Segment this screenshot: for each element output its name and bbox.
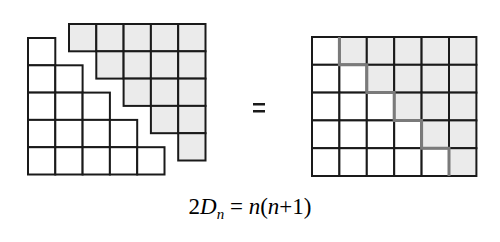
white-cell <box>367 93 394 121</box>
grey-cell <box>339 37 366 65</box>
white-cell <box>367 148 394 176</box>
white-cell <box>422 148 449 176</box>
white-cell <box>110 120 137 147</box>
grey-cell <box>124 51 151 78</box>
grey-cell <box>394 93 421 121</box>
grey-cell <box>151 51 178 78</box>
grey-cell <box>449 65 476 93</box>
grey-cell <box>151 106 178 133</box>
white-cell <box>110 147 137 174</box>
formula-n: n <box>249 194 261 219</box>
white-cell <box>137 147 164 174</box>
white-cell <box>312 65 339 93</box>
white-cell <box>55 147 82 174</box>
grey-cell <box>178 24 205 51</box>
grey-cell <box>422 120 449 148</box>
grey-cell <box>178 51 205 78</box>
white-cell <box>394 120 421 148</box>
white-cell <box>28 120 55 147</box>
grey-cell <box>178 106 205 133</box>
grey-cell <box>151 79 178 106</box>
grey-cell <box>394 65 421 93</box>
white-cell <box>339 148 366 176</box>
formula: 2Dn = n(n+1) <box>0 194 500 223</box>
grey-cell <box>422 65 449 93</box>
grey-cell <box>449 120 476 148</box>
white-cell <box>339 65 366 93</box>
white-cell <box>28 147 55 174</box>
white-cell <box>28 65 55 92</box>
equals-sign <box>253 103 265 113</box>
formula-coef: 2 <box>189 194 201 219</box>
grey-cell <box>367 37 394 65</box>
white-cell <box>339 120 366 148</box>
white-cell <box>83 147 110 174</box>
grey-cell <box>449 148 476 176</box>
grey-cell <box>124 24 151 51</box>
grey-cell <box>178 133 205 160</box>
white-cell <box>339 93 366 121</box>
grey-cell <box>151 24 178 51</box>
white-cell <box>312 120 339 148</box>
grey-cell <box>422 93 449 121</box>
formula-eq: = <box>224 194 248 219</box>
white-cell <box>55 120 82 147</box>
white-cell <box>28 38 55 65</box>
white-cell <box>55 65 82 92</box>
formula-plus: +1) <box>279 194 311 219</box>
grey-cell <box>96 51 123 78</box>
grey-cell <box>422 37 449 65</box>
formula-paren: ( <box>260 194 268 219</box>
grey-cell <box>367 65 394 93</box>
grey-cell <box>394 37 421 65</box>
white-cell <box>312 93 339 121</box>
grey-cell <box>449 37 476 65</box>
grey-cell <box>69 24 96 51</box>
white-cell <box>83 120 110 147</box>
left-staircases <box>28 24 206 175</box>
white-cell <box>28 93 55 120</box>
formula-n2: n <box>268 194 280 219</box>
white-cell <box>83 93 110 120</box>
grey-cell <box>178 79 205 106</box>
grey-cell <box>96 24 123 51</box>
white-cell <box>312 148 339 176</box>
grey-cell <box>124 79 151 106</box>
grey-cell <box>449 93 476 121</box>
combined-rectangle <box>312 37 476 176</box>
formula-var: D <box>200 194 217 219</box>
white-cell <box>367 120 394 148</box>
white-cell <box>312 37 339 65</box>
white-cell <box>394 148 421 176</box>
white-cell <box>55 93 82 120</box>
